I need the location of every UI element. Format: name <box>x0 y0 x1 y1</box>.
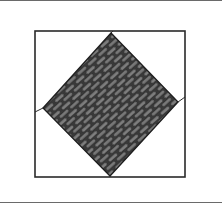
diamond-texture <box>35 25 185 185</box>
quilt-block-figure <box>0 0 222 206</box>
bottom-rule <box>0 202 222 203</box>
